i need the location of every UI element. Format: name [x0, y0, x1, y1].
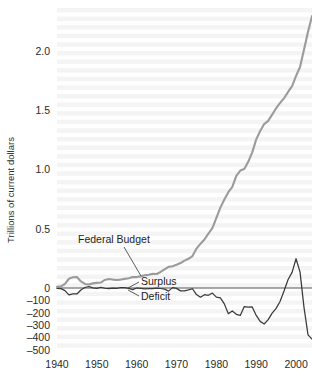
y-axis-title: Trillions of current dollars [5, 137, 16, 243]
chart-canvas: 0.51.01.52.0 0–100–200–300–400–500 19401… [0, 0, 312, 380]
annotation-label: Federal Budget [78, 233, 150, 245]
x-tick-label: 1950 [85, 358, 109, 370]
x-tick-label: 1980 [205, 358, 229, 370]
y-tick-label: –500 [27, 344, 51, 356]
x-tick-label: 2000 [284, 358, 308, 370]
y-tick-label: 0.5 [35, 223, 50, 235]
x-tick-label: 1970 [165, 358, 189, 370]
y-tick-label: –100 [27, 294, 51, 306]
y-tick-label: 2.0 [35, 45, 50, 57]
y-tick-label: 1.5 [35, 104, 50, 116]
x-tick-label: 1960 [125, 358, 149, 370]
y-tick-label: –200 [27, 307, 51, 319]
y-tick-label: 0 [44, 282, 50, 294]
x-tick-label: 1940 [45, 358, 69, 370]
annotation-label: Deficit [141, 290, 170, 302]
budget-chart-figure: 0.51.01.52.0 0–100–200–300–400–500 19401… [0, 0, 312, 380]
y-tick-label: 1.0 [35, 163, 50, 175]
x-tick-label: 1990 [245, 358, 269, 370]
annotation-label: Surplus [141, 275, 177, 287]
y-tick-label: –300 [27, 319, 51, 331]
y-tick-label: –400 [27, 331, 51, 343]
